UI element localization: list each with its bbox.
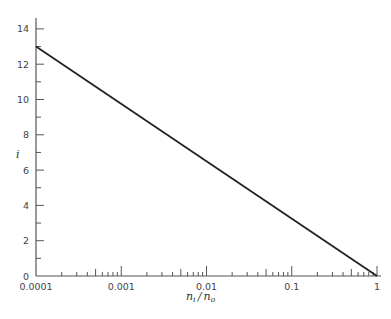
- axes: [36, 18, 381, 276]
- y-tick-label: 10: [17, 94, 29, 105]
- y-axis-ticks: 02468101214: [17, 23, 44, 281]
- data-series: [36, 47, 377, 276]
- y-tick-label: 6: [23, 165, 29, 176]
- x-axis-ticks: 0.00010.0010.010.11: [19, 266, 380, 292]
- y-tick-label: 12: [17, 59, 29, 70]
- y-axis-title: i: [16, 148, 20, 161]
- x-tick-label: 1: [374, 281, 380, 292]
- x-tick-label: 0.1: [284, 281, 299, 292]
- x-tick-label: 0.001: [108, 281, 135, 292]
- data-line: [36, 47, 377, 276]
- y-tick-label: 4: [23, 200, 29, 211]
- x-axis-title: ni/no: [186, 290, 215, 304]
- y-tick-label: 8: [23, 129, 29, 140]
- y-tick-label: 0: [23, 271, 29, 282]
- y-tick-label: 14: [17, 23, 29, 34]
- chart: 02468101214 0.00010.0010.010.11 i ni/no: [0, 0, 391, 319]
- x-tick-label: 0.0001: [19, 281, 52, 292]
- y-tick-label: 2: [23, 235, 29, 246]
